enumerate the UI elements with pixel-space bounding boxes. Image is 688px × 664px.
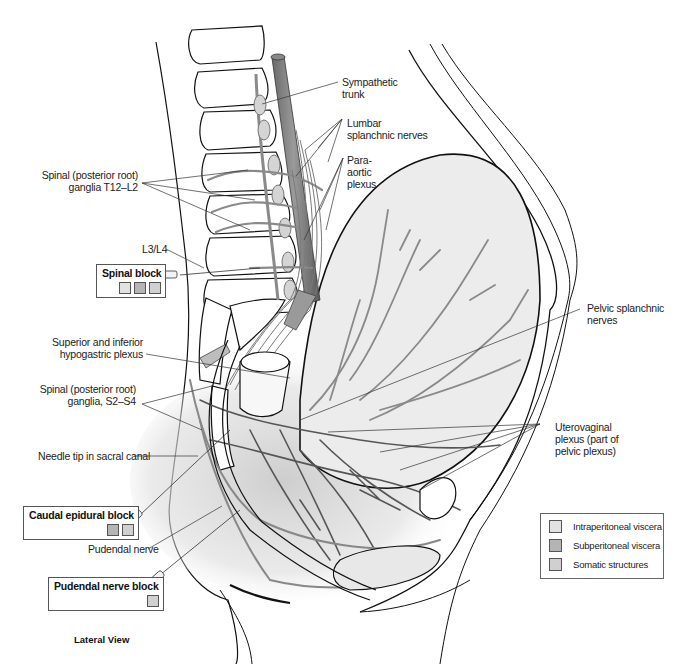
caudal-epidural-block-box: Caudal epidural block [23, 506, 139, 540]
label-spinal-ganglia-t12-l2: Spinal (posterior root) ganglia T12–L2 [42, 169, 138, 193]
legend-swatch [549, 558, 562, 571]
perineum-outline [220, 590, 252, 664]
label-line: Superior and inferior [52, 336, 143, 348]
figure-caption: Lateral View [74, 634, 129, 645]
legend-item-intraperitoneal: Intraperitoneal viscera [549, 517, 663, 536]
label-line: plexus (part of [555, 433, 619, 445]
label-line: Para- [347, 154, 376, 166]
label-pelvic-splanchnic: Pelvic splanchnic nerves [587, 302, 664, 326]
legend-item-somatic: Somatic structures [549, 555, 663, 574]
pudendal-block-swatches [54, 595, 159, 607]
swatch-somatic [149, 282, 161, 294]
label-line: pelvic plexus) [555, 445, 619, 457]
legend-label: Subperitoneal viscera [573, 540, 660, 551]
label-line: splanchnic nerves [347, 129, 428, 141]
label-line: plexus [347, 178, 376, 190]
label-para-aortic: Para- aortic plexus [347, 154, 376, 190]
spinal-block-swatches [102, 282, 161, 294]
legend-swatch [549, 520, 562, 533]
label-line: ganglia T12–L2 [42, 181, 138, 193]
legend: Intraperitoneal viscera Subperitoneal vi… [540, 513, 664, 579]
label-l3-l4: L3/L4 [142, 243, 167, 255]
caudal-block-title: Caudal epidural block [29, 509, 134, 522]
label-line: Pelvic splanchnic [587, 302, 664, 314]
label-sympathetic-trunk: Sympathetic trunk [342, 76, 398, 100]
swatch-subperitoneal [107, 524, 119, 536]
swatch-somatic [147, 595, 159, 607]
label-spinal-ganglia-s2-s4: Spinal (posterior root) ganglia, S2–S4 [40, 383, 136, 407]
label-line: Sympathetic [342, 76, 398, 88]
label-lumbar-splanchnic: Lumbar splanchnic nerves [347, 117, 428, 141]
cervix-tube [240, 352, 290, 417]
pudendal-nerve-block-box: Pudendal nerve block [48, 577, 164, 611]
label-line: Spinal (posterior root) [42, 169, 138, 181]
label-line: aortic [347, 166, 376, 178]
uterus [300, 154, 540, 488]
swatch-somatic [122, 524, 134, 536]
spinal-block-box: Spinal block [96, 264, 166, 298]
swatch-subperitoneal [134, 282, 146, 294]
label-line: Uterovaginal [555, 421, 619, 433]
label-line: Lumbar [347, 117, 428, 129]
label-line: ganglia, S2–S4 [40, 395, 136, 407]
legend-item-subperitoneal: Subperitoneal viscera [549, 536, 663, 555]
pudendal-block-title: Pudendal nerve block [54, 580, 159, 593]
label-uterovaginal-plexus: Uterovaginal plexus (part of pelvic plex… [555, 421, 619, 457]
label-line: hypogastric plexus [52, 348, 143, 360]
label-needle-tip: Needle tip in sacral canal [38, 450, 150, 462]
caudal-block-swatches [29, 524, 134, 536]
spinal-block-title: Spinal block [102, 267, 161, 280]
label-hypogastric-plexus: Superior and inferior hypogastric plexus [52, 336, 143, 360]
swatch-intraperitoneal [119, 282, 131, 294]
label-line: trunk [342, 88, 398, 100]
label-pudendal-nerve: Pudendal nerve [88, 543, 159, 555]
label-line: nerves [587, 314, 664, 326]
legend-label: Intraperitoneal viscera [573, 521, 662, 532]
legend-label: Somatic structures [573, 559, 648, 570]
label-line: Spinal (posterior root) [40, 383, 136, 395]
legend-swatch [549, 539, 562, 552]
